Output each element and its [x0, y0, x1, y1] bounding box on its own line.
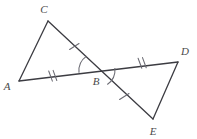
vertex-label-E: E [150, 126, 157, 137]
segment-CE [48, 21, 153, 119]
tick-BE-single [120, 94, 129, 100]
segment-group [19, 21, 178, 119]
segment-AC [19, 21, 48, 81]
segment-DE [153, 62, 178, 119]
angle-arc-ABC [79, 56, 87, 73]
vertex-label-A: A [4, 81, 11, 92]
vertex-label-D: D [181, 46, 189, 57]
geometry-figure: A B C D E [0, 0, 197, 139]
vertex-label-C: C [40, 4, 47, 15]
geometry-diagram [0, 0, 197, 139]
vertex-label-B: B [93, 76, 100, 87]
tick-AB-double [49, 70, 57, 81]
